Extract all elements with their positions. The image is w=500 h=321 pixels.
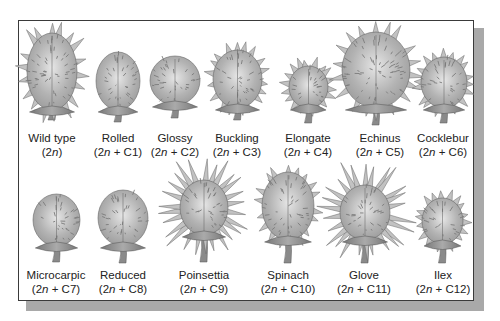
capsule-echinus [329, 21, 424, 125]
karyotype-part: + C11) [354, 283, 391, 295]
karyotype-part: (2 [180, 283, 190, 295]
capsule-glossy [150, 56, 200, 118]
capsule-rolled [96, 51, 140, 122]
capsule-buckling [204, 42, 269, 120]
capsule-microcarpic [33, 194, 80, 262]
karyotype-part: (2 [94, 146, 104, 158]
phenotype-name: Glove [319, 268, 409, 282]
karyotype: (2n + C9) [159, 282, 249, 296]
karyotype-part: (2 [419, 146, 429, 158]
capsule-label: Cocklebur(2n + C6) [398, 131, 488, 159]
karyotype-part: (2 [213, 146, 223, 158]
karyotype: (2n + C6) [398, 145, 488, 159]
karyotype-part: ) [58, 146, 62, 158]
capsule-poinsettia [158, 159, 247, 262]
phenotype-name: Reduced [78, 268, 168, 282]
karyotype: (2n + C11) [319, 282, 409, 296]
karyotype-part: + C9) [197, 283, 229, 295]
karyotype-part: (2 [284, 146, 294, 158]
capsule-spinach [254, 165, 323, 263]
karyotype-part: (2 [337, 283, 347, 295]
capsule-label: Reduced(2n + C8) [78, 268, 168, 296]
karyotype-part: + C4) [301, 146, 333, 158]
capsule-cocklebur [412, 48, 474, 123]
karyotype-part: (2 [42, 146, 52, 158]
capsule-label: Poinsettia(2n + C9) [159, 268, 249, 296]
phenotype-name: Cocklebur [398, 131, 488, 145]
karyotype-part: + C7) [49, 283, 81, 295]
karyotype-part: + C8) [116, 283, 148, 295]
capsule-label: Ilex(2n + C12) [398, 268, 488, 296]
phenotype-name: Poinsettia [159, 268, 249, 282]
karyotype-part: (2 [416, 283, 426, 295]
phenotype-name: Ilex [398, 268, 488, 282]
karyotype-part: + C10) [277, 283, 315, 295]
karyotype-part: (2 [151, 146, 161, 158]
capsule-ilex [415, 190, 472, 263]
karyotype: (2n + C12) [398, 282, 488, 296]
karyotype-part: (2 [356, 146, 366, 158]
capsule-label: Glove(2n + C11) [319, 268, 409, 296]
capsule-elongate [279, 57, 336, 123]
karyotype-part: (2 [261, 283, 271, 295]
karyotype: (2n + C8) [78, 282, 168, 296]
capsule-reduced [98, 190, 149, 263]
karyotype-part: (2 [99, 283, 109, 295]
karyotype-part: (2 [32, 283, 42, 295]
capsule-wild-type [15, 22, 89, 122]
capsule-glove [317, 163, 416, 263]
karyotype-part: + C3) [230, 146, 262, 158]
karyotype-part: + C6) [436, 146, 468, 158]
karyotype-part: + C12) [432, 283, 470, 295]
